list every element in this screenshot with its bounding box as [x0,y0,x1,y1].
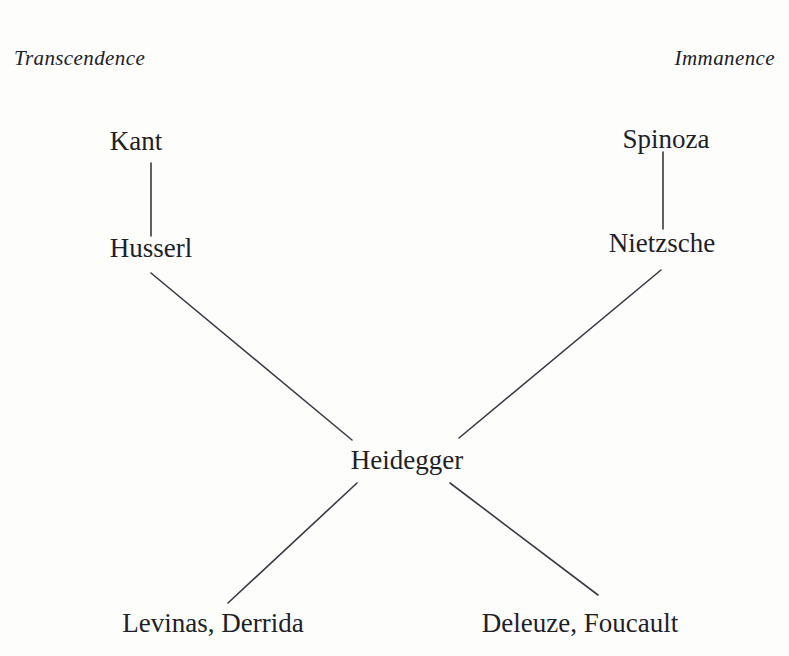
edge-heidegger-deleuze-foucault [450,483,598,595]
node-deleuze-foucault: Deleuze, Foucault [482,610,678,637]
axis-label-transcendence: Transcendence [14,46,145,71]
lineage-diagram: Transcendence Immanence Kant Husserl Spi… [0,0,789,656]
edge-heidegger-levinas-derrida [228,483,357,603]
node-kant: Kant [110,128,162,155]
edge-nietzsche-heidegger [459,270,661,438]
edge-husserl-heidegger [151,273,352,440]
node-nietzsche: Nietzsche [609,230,715,257]
node-levinas-derrida: Levinas, Derrida [122,610,303,637]
node-husserl: Husserl [110,235,193,262]
axis-label-immanence: Immanence [675,46,775,71]
edge-layer [0,0,789,656]
node-heidegger: Heidegger [351,447,463,474]
node-spinoza: Spinoza [623,126,710,153]
